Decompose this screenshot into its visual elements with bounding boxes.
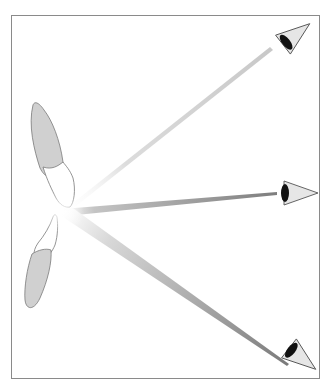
diagram-canvas [0,0,326,384]
reflection-point [40,190,84,234]
eye-middle-iris [281,184,289,202]
